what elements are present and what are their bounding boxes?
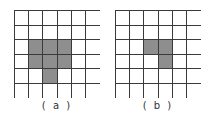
label-b: ( b ) [138,100,178,111]
grid-cell-filled [144,40,158,55]
grid-cell [187,11,201,26]
grid-cell [72,40,86,55]
grid-cell [72,84,86,99]
grid-cell-filled [58,40,72,55]
grid-cell-filled [43,55,57,70]
grid-cell [58,26,72,41]
grid-cell [116,40,130,55]
grid-cell [43,84,57,99]
grid-cell-filled [29,55,43,70]
grid-cell [187,26,201,41]
grid-cell [29,11,43,26]
grid-cell [187,55,201,70]
grid-a [14,10,100,98]
grid-cell [130,69,144,84]
grid-cell [173,55,187,70]
grid-cell [72,55,86,70]
grid-cell [15,84,29,99]
grid-cell [116,11,130,26]
grid-cell [72,26,86,41]
grid-cell [86,84,100,99]
grid-cell [159,26,173,41]
grid-cell [116,69,130,84]
grid-cell [130,11,144,26]
grid-cell [187,84,201,99]
grid-cell [86,40,100,55]
grid-cell [187,69,201,84]
grid-cell [159,69,173,84]
grid-cell [86,11,100,26]
grid-cell [43,26,57,41]
grid-cell [72,11,86,26]
grid-b [115,10,201,98]
grid-cell [144,11,158,26]
grid-cell-filled [43,40,57,55]
grid-cell-filled [43,69,57,84]
grid-cell [86,69,100,84]
grid-cell [144,84,158,99]
grid-cell [58,11,72,26]
grid-cell [15,40,29,55]
grid-cell [130,40,144,55]
grid-cell-filled [29,40,43,55]
grid-cell [15,69,29,84]
grid-cell [43,11,57,26]
grid-cell [144,26,158,41]
grid-cell-filled [159,55,173,70]
grid-cell [116,84,130,99]
panel-a [14,10,100,98]
grid-cell [187,40,201,55]
grid-cell [159,11,173,26]
grid-cell [130,26,144,41]
grid-cell [130,84,144,99]
grid-cell-filled [58,55,72,70]
grid-cell [29,26,43,41]
grid-cell [173,11,187,26]
grid-cell [29,84,43,99]
label-a: ( a ) [37,100,77,111]
grid-cell [173,26,187,41]
grid-cell [173,69,187,84]
grid-cell [116,26,130,41]
panel-b [115,10,201,98]
grid-cell [15,55,29,70]
grid-cell [159,84,173,99]
grid-cell [15,11,29,26]
grid-cell [144,55,158,70]
grid-cell [86,26,100,41]
grid-cell [144,69,158,84]
grid-cell-filled [159,40,173,55]
grid-cell [86,55,100,70]
grid-cell [173,40,187,55]
grid-cell [72,69,86,84]
grid-cell [58,84,72,99]
grid-cell [29,69,43,84]
grid-cell [130,55,144,70]
grid-cell [15,26,29,41]
grid-cell [58,69,72,84]
grid-cell [173,84,187,99]
grid-cell [116,55,130,70]
